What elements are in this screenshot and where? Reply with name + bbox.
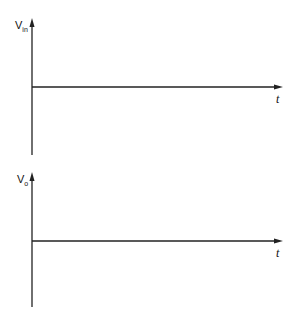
vo-label-sub: o [24, 180, 28, 187]
vin-label-sub: in [22, 26, 27, 33]
vo-label: Vo [17, 173, 28, 185]
vin-t-arrow-icon [274, 85, 283, 90]
vin-t-label: t [276, 92, 279, 107]
vo-y-arrow-icon [30, 172, 35, 181]
vin-label: Vin [15, 19, 28, 31]
axes-drawing [0, 0, 296, 327]
vin-y-arrow-icon [30, 18, 35, 27]
vo-t-label: t [276, 246, 279, 261]
vo-axes [30, 172, 284, 307]
vo-t-arrow-icon [274, 239, 283, 244]
vin-axes [30, 18, 284, 155]
